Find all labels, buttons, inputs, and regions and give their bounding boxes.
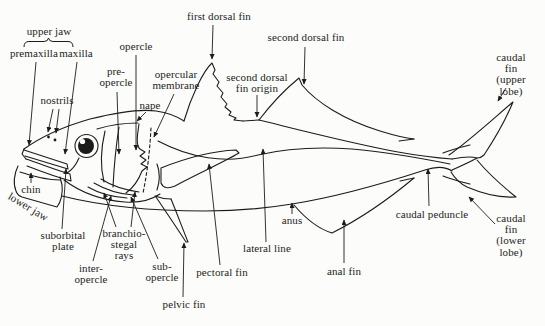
leader-pelvic-fin xyxy=(183,243,184,297)
leader-lateral-line xyxy=(263,149,266,242)
caudal-peduncle-shape xyxy=(452,157,477,170)
nostril-dots xyxy=(47,136,56,142)
caudal-fin-upper-lobe-shape xyxy=(449,102,513,158)
leader-branchiostegal-right xyxy=(131,192,135,227)
first-dorsal-fin-shape xyxy=(184,63,243,121)
leader-inter-opercle xyxy=(93,196,111,261)
leader-first-dorsal-fin xyxy=(212,25,213,59)
leader-caudal-fin-lower xyxy=(469,197,495,224)
anal-fin-shape xyxy=(294,178,414,233)
pelvic-fin-shape xyxy=(156,197,188,242)
leader-sub-opercle xyxy=(131,197,158,259)
belly-line xyxy=(62,167,452,211)
head-dorsal-profile xyxy=(24,110,184,149)
eye xyxy=(75,135,98,158)
leader-maxilla xyxy=(65,62,77,154)
leader-caudal-peduncle xyxy=(428,169,429,206)
leader-opercular-membrane xyxy=(154,94,174,137)
second-dorsal-fin-notch xyxy=(399,139,414,141)
maxilla-bone xyxy=(26,159,71,181)
leader-nape xyxy=(137,112,146,121)
pectoral-fin-shape xyxy=(161,150,239,188)
leader-second-dorsal-fin xyxy=(304,47,305,84)
leader-premaxilla xyxy=(29,62,36,145)
upper-jaw-brace xyxy=(24,38,73,47)
nostril-rear-dot xyxy=(54,139,57,142)
nostril-front-dot xyxy=(47,136,50,139)
pectoral-girdle-line xyxy=(157,164,159,190)
diagram-drawing xyxy=(0,0,545,326)
leader-pre-opercle xyxy=(117,92,119,154)
leader-nostrils-front xyxy=(48,109,53,132)
opercular-membrane-edge xyxy=(143,128,151,193)
opercle-rear-serrated-edge xyxy=(126,124,147,193)
back-line xyxy=(259,120,452,159)
fish-anatomy-diagram: upper jaw premaxilla maxilla opercle pre… xyxy=(0,0,545,326)
preopercle-front-edge xyxy=(101,131,105,182)
leader-pectoral-fin xyxy=(209,164,220,265)
back-between-fins xyxy=(243,120,259,121)
leader-suborbital-plate xyxy=(62,169,66,229)
opercle-top-edge xyxy=(97,123,138,129)
eye-highlight xyxy=(80,139,85,144)
leader-caudal-fin-upper xyxy=(498,88,506,101)
suborbital-curve xyxy=(67,158,79,173)
lateral-line-curve xyxy=(158,141,450,164)
second-dorsal-fin-shape xyxy=(259,78,414,139)
